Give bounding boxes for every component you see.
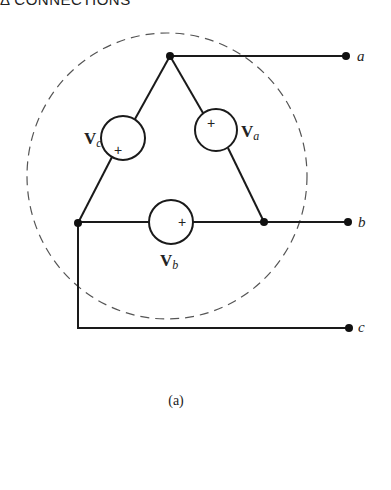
figure-caption: (a) xyxy=(168,393,184,409)
delta-connection-diagram: + + + Vc Va Vb a b c (a) xyxy=(0,0,391,490)
terminal-a-dot xyxy=(342,52,350,60)
node-right xyxy=(260,218,268,226)
wire-va-to-right xyxy=(228,148,264,222)
polarity-va: + xyxy=(207,115,215,131)
wire-vc-to-left xyxy=(78,157,112,223)
wire-top-to-vc xyxy=(135,56,170,119)
terminal-b-label: b xyxy=(358,214,366,230)
wire-top-to-va xyxy=(170,56,203,113)
source-vc-circle xyxy=(101,116,145,160)
label-vc: Vc xyxy=(84,129,102,150)
source-va-circle xyxy=(195,109,237,151)
polarity-vc: + xyxy=(114,142,122,158)
terminal-b-dot xyxy=(344,218,352,226)
polarity-vb: + xyxy=(178,214,186,230)
terminal-c-label: c xyxy=(358,319,365,335)
terminal-a-label: a xyxy=(357,48,365,64)
label-vb: Vb xyxy=(160,251,178,272)
terminal-c-dot xyxy=(345,324,353,332)
label-va: Va xyxy=(241,122,259,143)
dashed-enclosure xyxy=(27,33,307,319)
node-left xyxy=(74,219,82,227)
wire-to-terminal-c xyxy=(78,222,349,328)
node-top xyxy=(166,52,174,60)
source-vb-circle xyxy=(149,200,193,244)
